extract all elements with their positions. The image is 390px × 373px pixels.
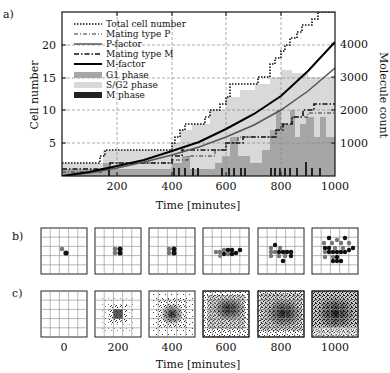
x-tick-800: 800 [271, 180, 292, 193]
y-tick-15: 15 [42, 72, 56, 85]
legend-item-m-factor: M-factor [74, 59, 146, 69]
density-grid-t0 [41, 291, 87, 337]
colony-grid-t1000 [312, 228, 358, 274]
colony-grid-t600 [203, 228, 249, 274]
x-tick-600: 600 [216, 180, 237, 193]
y2-tick-3000: 3000 [340, 71, 368, 84]
legend-item-total-cell-number: Total cell number [74, 19, 187, 29]
c-time-400: 400 [162, 341, 183, 354]
y2-tick-1000: 1000 [340, 137, 368, 150]
c-time-600: 600 [216, 341, 237, 354]
density-grid-t400 [149, 291, 195, 337]
svg-text:P-factor: P-factor [106, 39, 142, 49]
colony-grid-t0 [41, 228, 87, 274]
c-time-200: 200 [108, 341, 129, 354]
y-tick-20: 20 [42, 39, 56, 52]
panel-a-chart: 200 400 600 800 1000 Time [minutes] 5 10… [28, 12, 390, 212]
y-tick-5: 5 [49, 137, 56, 150]
panel-c-time-labels: 0 200 400 600 800 1000 [61, 341, 350, 354]
svg-text:Mating type P: Mating type P [106, 29, 170, 39]
c-time-800: 800 [271, 341, 292, 354]
y-tick-10: 10 [42, 104, 56, 117]
density-grid-t800 [258, 291, 304, 337]
legend-item-m-phase: M phase [74, 90, 145, 100]
colony-grid-t800 [258, 228, 304, 274]
y-left-axis-label: Cell number [28, 60, 41, 130]
svg-text:S/G2 phase: S/G2 phase [106, 80, 158, 90]
c-time-0: 0 [61, 341, 68, 354]
legend-item-p-factor: P-factor [74, 39, 142, 49]
x-tick-200: 200 [107, 180, 128, 193]
y2-tick-2000: 2000 [340, 104, 368, 117]
y-left-tick-labels: 5 10 15 20 [42, 39, 56, 150]
svg-text:M-factor: M-factor [106, 59, 146, 69]
legend: Total cell number Mating type P P-factor… [74, 19, 187, 100]
bottom-x-axis-label: Time [minutes] [156, 358, 241, 371]
colony-grid-t400 [149, 228, 195, 274]
x-tick-labels: 200 400 600 800 1000 [107, 180, 350, 193]
x-tick-1000: 1000 [321, 180, 349, 193]
density-grid-t600 [203, 291, 249, 337]
panel-b-grids [41, 228, 358, 274]
svg-text:Mating type M: Mating type M [106, 49, 173, 59]
density-grid-t200 [95, 291, 141, 337]
legend-item-mating-type-m: Mating type M [74, 49, 173, 59]
y2-tick-4000: 4000 [340, 38, 368, 51]
y-right-tick-labels: 1000 2000 3000 4000 [340, 38, 368, 150]
y-right-axis-label: Molecule count [377, 52, 390, 139]
legend-item-mating-type-p: Mating type P [74, 29, 170, 39]
panel-c-grids: 0 200 400 600 800 1000 Time [minutes] [41, 291, 358, 371]
x-tick-400: 400 [162, 180, 183, 193]
legend-item-g1-phase: G1 phase [74, 70, 149, 80]
colony-grid-t200 [95, 228, 141, 274]
svg-text:Total cell number: Total cell number [106, 19, 187, 29]
density-grid-t1000 [312, 291, 358, 337]
c-time-1000: 1000 [321, 341, 349, 354]
svg-text:G1 phase: G1 phase [106, 70, 149, 80]
legend-item-sg2-phase: S/G2 phase [74, 80, 158, 90]
svg-text:M phase: M phase [106, 90, 145, 100]
figure: 200 400 600 800 1000 Time [minutes] 5 10… [0, 0, 390, 373]
x-axis-label: Time [minutes] [156, 199, 241, 212]
